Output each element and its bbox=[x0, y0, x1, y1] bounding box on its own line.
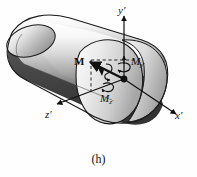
figure-panel: y′ x′ z′ M My′ Mz′ (h) bbox=[0, 0, 197, 177]
moment-component-y-label: My′ bbox=[131, 56, 145, 69]
my-base: M bbox=[131, 55, 140, 67]
bar-cross-section bbox=[76, 40, 143, 124]
moment-vector-label: M bbox=[74, 56, 84, 67]
moment-component-z-label: Mz′ bbox=[100, 93, 113, 106]
my-subscript: y′ bbox=[140, 61, 145, 68]
y-axis-label: y′ bbox=[118, 5, 125, 16]
mz-base: M bbox=[100, 92, 109, 104]
mz-subscript: z′ bbox=[109, 98, 113, 105]
z-axis-label: z′ bbox=[45, 109, 52, 120]
figure-caption: (h) bbox=[0, 152, 197, 167]
curved-bar-body bbox=[3, 15, 168, 125]
diagram-canvas bbox=[0, 0, 197, 177]
x-axis-label: x′ bbox=[175, 110, 182, 121]
